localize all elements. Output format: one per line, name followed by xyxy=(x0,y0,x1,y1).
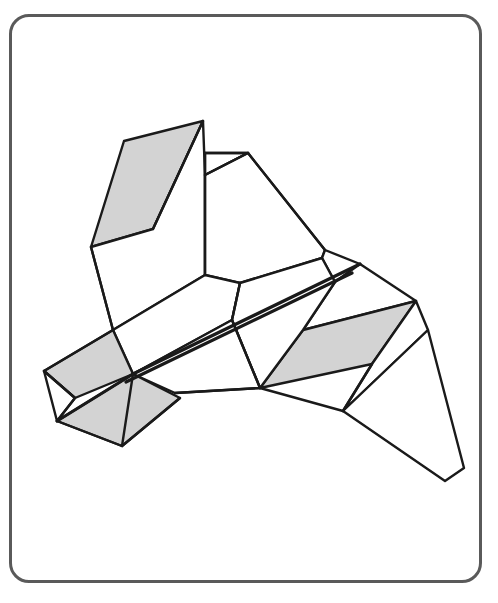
figure-faces xyxy=(44,121,464,481)
origami-figure xyxy=(0,0,498,603)
fold-line-tail-lower-edge xyxy=(260,388,343,411)
screenshot-root xyxy=(0,0,498,603)
paper-plane-illustration xyxy=(0,0,498,603)
